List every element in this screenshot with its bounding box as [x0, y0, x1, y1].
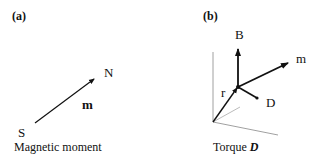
- moment-vector-label: m: [82, 98, 93, 111]
- field-b-label: B: [235, 28, 244, 41]
- moment-m-label: m: [296, 52, 306, 65]
- panel-b-caption: Torque D: [213, 141, 259, 153]
- horizontal-axis-line: [213, 122, 278, 135]
- diagram-canvas: [0, 0, 322, 160]
- pivot-point: [236, 85, 240, 89]
- north-pole-label: N: [104, 66, 113, 79]
- torque-d-label: D: [266, 96, 275, 109]
- position-r-label: r: [221, 86, 225, 99]
- south-pole-label: S: [18, 126, 25, 139]
- moment-vector-m: [238, 63, 288, 87]
- caption-symbol: D: [250, 140, 259, 154]
- caption-prefix: Torque: [213, 140, 247, 154]
- panel-b-label: (b): [203, 10, 218, 22]
- torque-vector-d: [238, 87, 257, 98]
- torque-vector-tip: [255, 96, 258, 99]
- depth-axis-line: [213, 107, 240, 122]
- panel-a-caption: Magnetic moment: [14, 141, 102, 153]
- panel-a-label: (a): [12, 10, 26, 22]
